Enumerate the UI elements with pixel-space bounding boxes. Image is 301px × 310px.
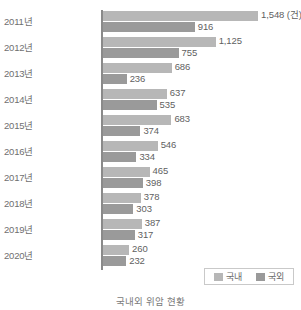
bar-overseas[interactable] — [103, 48, 179, 58]
bar-value-domestic: 686 — [175, 62, 191, 72]
chart-legend: 국내 국외 — [204, 268, 294, 285]
bar-value-domestic: 546 — [161, 140, 177, 150]
bar-row: 2014년637535 — [0, 88, 301, 114]
bar-value-overseas: 236 — [130, 74, 146, 84]
bar-overseas[interactable] — [103, 230, 135, 240]
bar-row: 2017년465398 — [0, 166, 301, 192]
bar-value-domestic: 260 — [132, 244, 148, 254]
category-label: 2011년 — [4, 16, 96, 27]
bar-overseas[interactable] — [103, 178, 143, 188]
bar-value-overseas: 232 — [129, 256, 145, 266]
bar-row: 2011년1,548 (건)916 — [0, 10, 301, 36]
bar-overseas[interactable] — [103, 152, 136, 162]
bar-domestic[interactable] — [103, 141, 158, 151]
bar-domestic[interactable] — [103, 37, 216, 47]
bar-domestic[interactable] — [103, 63, 172, 73]
plot-area: 2011년1,548 (건)9162012년1,1257552013년68623… — [0, 8, 301, 272]
category-label: 2019년 — [4, 224, 96, 235]
legend-item-overseas[interactable]: 국외 — [256, 272, 284, 282]
legend-item-domestic[interactable]: 국내 — [214, 272, 242, 282]
bar-domestic[interactable] — [103, 11, 258, 21]
category-label: 2013년 — [4, 68, 96, 79]
bar-chart: 2011년1,548 (건)9162012년1,1257552013년68623… — [0, 0, 301, 310]
bar-overseas[interactable] — [103, 22, 195, 32]
bar-domestic[interactable] — [103, 219, 142, 229]
legend-swatch-domestic-icon — [214, 273, 223, 281]
legend-swatch-overseas-icon — [256, 273, 265, 281]
category-label: 2016년 — [4, 146, 96, 157]
bar-value-domestic: 1,125 — [219, 36, 242, 46]
bar-row: 2018년378303 — [0, 192, 301, 218]
bar-domestic[interactable] — [103, 193, 141, 203]
bar-value-overseas: 916 — [198, 22, 214, 32]
bar-value-overseas: 303 — [136, 204, 152, 214]
legend-label-domestic: 국내 — [226, 272, 242, 282]
bar-value-domestic: 683 — [174, 114, 190, 124]
category-label: 2014년 — [4, 94, 96, 105]
bar-row: 2012년1,125755 — [0, 36, 301, 62]
bar-domestic[interactable] — [103, 245, 129, 255]
bar-value-domestic: 637 — [170, 88, 186, 98]
bar-value-domestic: 465 — [153, 166, 169, 176]
bar-value-overseas: 398 — [146, 178, 162, 188]
category-label: 2017년 — [4, 172, 96, 183]
category-label: 2018년 — [4, 198, 96, 209]
bar-overseas[interactable] — [103, 100, 157, 110]
bar-value-overseas: 317 — [138, 230, 154, 240]
legend-label-overseas: 국외 — [268, 272, 284, 282]
bar-row: 2013년686236 — [0, 62, 301, 88]
bar-domestic[interactable] — [103, 167, 150, 177]
bar-overseas[interactable] — [103, 204, 133, 214]
bar-domestic[interactable] — [103, 89, 167, 99]
bar-overseas[interactable] — [103, 256, 126, 266]
bar-value-domestic: 378 — [144, 192, 160, 202]
category-label: 2020년 — [4, 250, 96, 261]
category-label: 2015년 — [4, 120, 96, 131]
bar-value-domestic: 1,548 (건) — [261, 10, 301, 20]
bar-value-overseas: 535 — [160, 100, 176, 110]
bar-row: 2019년387317 — [0, 218, 301, 244]
bar-value-overseas: 755 — [182, 48, 198, 58]
bar-row: 2016년546334 — [0, 140, 301, 166]
bar-domestic[interactable] — [103, 115, 171, 125]
bar-overseas[interactable] — [103, 74, 127, 84]
bar-value-domestic: 387 — [145, 218, 161, 228]
chart-caption: 국내외 위암 현황 — [0, 296, 301, 308]
bar-value-overseas: 374 — [143, 126, 159, 136]
bar-row: 2015년683374 — [0, 114, 301, 140]
bar-overseas[interactable] — [103, 126, 140, 136]
bar-value-overseas: 334 — [139, 152, 155, 162]
category-label: 2012년 — [4, 42, 96, 53]
bar-row: 2020년260232 — [0, 244, 301, 270]
